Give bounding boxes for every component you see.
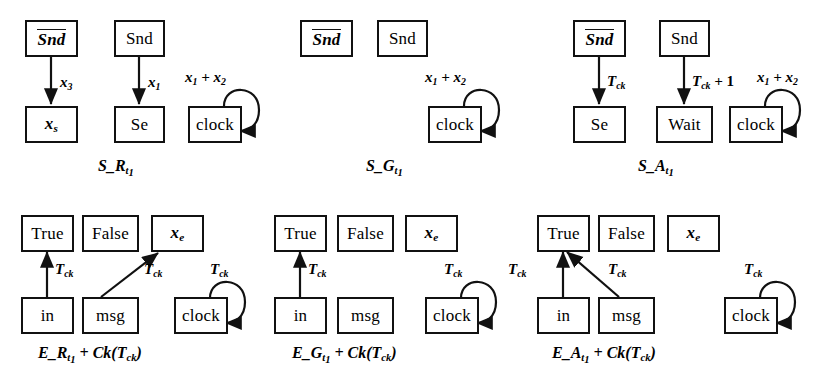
node-xe-eg[interactable]: xe [405, 215, 458, 252]
clock-label-er: clock [182, 307, 220, 324]
node-clock-er[interactable]: clock [174, 297, 228, 334]
caption-eg: E_Gt1 + Ck(Tck) [292, 345, 397, 366]
edge-label-tck-in-true-ea: Tck [508, 262, 527, 279]
node-snd-bar-sa[interactable]: Snd [573, 20, 626, 57]
node-snd-sr[interactable]: Snd [114, 20, 165, 57]
clock-label-eg: clock [433, 307, 471, 324]
edge-label-tck-sa: Tck [607, 74, 626, 91]
true-label-eg: True [284, 225, 316, 242]
clock-label: clock [196, 116, 234, 133]
node-false-eg[interactable]: False [337, 215, 394, 252]
node-in-eg[interactable]: in [274, 297, 327, 334]
clock-label-ea: clock [732, 307, 770, 324]
node-xe-er[interactable]: xe [151, 215, 204, 252]
node-msg-eg[interactable]: msg [337, 297, 394, 334]
in-label-ea: in [557, 307, 571, 324]
edge-label-x1x2-sr: x1 + x2 [185, 70, 226, 87]
node-snd-sg[interactable]: Snd [377, 20, 428, 57]
caption-ea: E_At1 + Ck(Tck) [552, 345, 656, 366]
xe-label-eg: xe [425, 224, 439, 243]
node-clock-sa[interactable]: clock [729, 106, 783, 143]
caption-er: E_Rt1 + Ck(Tck) [38, 345, 142, 366]
node-clock-sr[interactable]: clock [188, 106, 242, 143]
node-se-sa[interactable]: Se [573, 106, 626, 143]
edge-label-tck1-sa: Tck + 1 [692, 74, 734, 91]
xe-label-ea: xe [687, 224, 701, 243]
node-clock-ea[interactable]: clock [724, 297, 778, 334]
edge-label-tck-msg-true-ea: Tck [608, 262, 627, 279]
node-wait-sa[interactable]: Wait [656, 106, 713, 143]
edge-label-x1-sr: x1 [148, 75, 160, 92]
se-label: Se [131, 116, 148, 133]
edge-label-x1x2-sa: x1 + x2 [757, 70, 798, 87]
false-label-ea: False [608, 225, 645, 242]
se-label-sa: Se [591, 116, 608, 133]
node-false-er[interactable]: False [82, 215, 139, 252]
node-se-sr[interactable]: Se [114, 106, 165, 143]
node-true-ea[interactable]: True [537, 215, 590, 252]
wait-label: Wait [668, 116, 700, 133]
true-label-er: True [31, 225, 63, 242]
clock-label-sg: clock [436, 116, 474, 133]
node-clock-eg[interactable]: clock [425, 297, 479, 334]
in-label-eg: in [294, 307, 308, 324]
msg-label-eg: msg [351, 307, 380, 324]
in-label-er: in [41, 307, 55, 324]
edge-label-tck-msg-xe-er: Tck [144, 262, 163, 279]
edge-label-x3: x3 [60, 75, 72, 92]
edge-label-tck-clock-er: Tck [210, 262, 229, 279]
false-label-eg: False [347, 225, 384, 242]
node-true-eg[interactable]: True [274, 215, 327, 252]
snd-bar-label: Snd [37, 29, 65, 49]
node-x-s[interactable]: xs [25, 106, 78, 143]
node-msg-er[interactable]: msg [82, 297, 139, 334]
snd-label-sg: Snd [389, 30, 416, 47]
node-true-er[interactable]: True [21, 215, 74, 252]
msg-label-er: msg [96, 307, 125, 324]
true-label-ea: True [547, 225, 579, 242]
edge-label-tck-in-true-eg: Tck [308, 262, 327, 279]
false-label-er: False [92, 225, 129, 242]
x-s-label: xs [45, 115, 58, 134]
xe-label-er: xe [171, 224, 185, 243]
node-in-er[interactable]: in [21, 297, 74, 334]
node-snd-sa[interactable]: Snd [659, 20, 710, 57]
edge-label-x1x2-sg: x1 + x2 [425, 70, 466, 87]
snd-bar-label-sa: Snd [585, 29, 613, 49]
node-clock-sg[interactable]: clock [428, 106, 482, 143]
snd-label-sa: Snd [671, 30, 698, 47]
caption-sg: S_Gt1 [366, 158, 403, 179]
snd-bar-label-sg: Snd [312, 29, 340, 49]
edge-label-tck-in-true-er: Tck [55, 262, 74, 279]
node-snd-bar-sg[interactable]: Snd [300, 20, 353, 57]
edge-label-tck-clock-ea: Tck [744, 262, 763, 279]
caption-sr: S_Rt1 [98, 158, 134, 179]
caption-sa: S_At1 [638, 158, 674, 179]
node-false-ea[interactable]: False [598, 215, 655, 252]
diagram-canvas: Snd xs Snd Se clock x3 x1 x1 + x2 S_Rt1 … [0, 0, 820, 383]
node-snd-bar-sr[interactable]: Snd [25, 20, 78, 57]
node-msg-ea[interactable]: msg [598, 297, 655, 334]
edge-label-tck-clock-eg: Tck [444, 262, 463, 279]
msg-label-ea: msg [612, 307, 641, 324]
snd-label: Snd [126, 30, 153, 47]
node-xe-ea[interactable]: xe [667, 215, 720, 252]
clock-label-sa: clock [737, 116, 775, 133]
node-in-ea[interactable]: in [537, 297, 590, 334]
